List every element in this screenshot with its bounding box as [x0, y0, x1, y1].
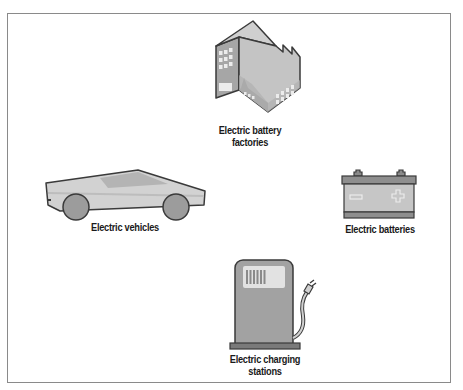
label-charging-stations: Electric charging stations — [221, 353, 309, 377]
charging-station-icon — [0, 0, 463, 390]
